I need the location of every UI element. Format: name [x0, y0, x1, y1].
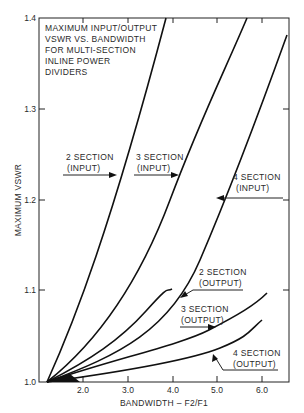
- label-2-section-input: 2 SECTION (INPUT): [63, 152, 117, 178]
- svg-text:4 SECTION: 4 SECTION: [233, 348, 281, 358]
- svg-text:(INPUT): (INPUT): [236, 183, 269, 193]
- y-tick-labels: 1.0 1.1 1.2 1.3 1.4: [24, 13, 36, 387]
- label-4-section-output: 4 SECTION (OUTPUT): [212, 348, 281, 370]
- svg-text:3 SECTION: 3 SECTION: [181, 304, 229, 314]
- svg-text:(INPUT): (INPUT): [137, 163, 170, 173]
- svg-text:(OUTPUT): (OUTPUT): [199, 278, 242, 288]
- x-tick-labels: 2.0 3.0 4.0 5.0 6.0: [77, 385, 268, 395]
- y-axis-label: MAXIMUM VSWR: [13, 164, 23, 237]
- svg-text:4 SECTION: 4 SECTION: [233, 172, 281, 182]
- x-axis-label: BANDWIDTH – F2/F1: [120, 398, 208, 408]
- svg-text:(OUTPUT): (OUTPUT): [233, 359, 276, 369]
- x-axis: [83, 18, 262, 382]
- svg-text:(OUTPUT): (OUTPUT): [181, 315, 224, 325]
- svg-text:2.0: 2.0: [77, 385, 89, 395]
- label-2-section-output: 2 SECTION (OUTPUT): [180, 267, 247, 298]
- curve-2-section-output: [47, 289, 172, 382]
- svg-text:1.2: 1.2: [24, 195, 36, 205]
- svg-text:FOR MULTI-SECTION: FOR MULTI-SECTION: [45, 45, 136, 55]
- chart-title: MAXIMUM INPUT/OUTPUT VSWR VS. BANDWIDTH …: [45, 23, 157, 77]
- svg-text:DIVIDERS: DIVIDERS: [45, 67, 88, 77]
- svg-text:VSWR VS. BANDWIDTH: VSWR VS. BANDWIDTH: [45, 34, 146, 44]
- svg-text:3.0: 3.0: [122, 385, 134, 395]
- vswr-chart: 1.0 1.1 1.2 1.3 1.4 2.0 3.0 4.0 5.0 6.0 …: [0, 0, 304, 413]
- curve-4-section-output: [47, 320, 262, 382]
- svg-text:1.4: 1.4: [24, 13, 36, 23]
- svg-text:(INPUT): (INPUT): [67, 163, 100, 173]
- svg-text:5.0: 5.0: [211, 385, 223, 395]
- svg-text:2 SECTION: 2 SECTION: [66, 152, 114, 162]
- svg-text:1.3: 1.3: [24, 104, 36, 114]
- label-3-section-output: 3 SECTION (OUTPUT): [180, 304, 229, 330]
- y-axis: [39, 109, 289, 290]
- svg-text:INLINE POWER: INLINE POWER: [45, 56, 110, 66]
- label-3-section-input: 3 SECTION (INPUT): [134, 152, 184, 178]
- svg-text:4.0: 4.0: [167, 385, 179, 395]
- svg-text:1.0: 1.0: [24, 377, 36, 387]
- svg-text:6.0: 6.0: [256, 385, 268, 395]
- svg-text:3 SECTION: 3 SECTION: [136, 152, 184, 162]
- svg-text:2 SECTION: 2 SECTION: [199, 267, 247, 277]
- svg-text:MAXIMUM INPUT/OUTPUT: MAXIMUM INPUT/OUTPUT: [45, 23, 157, 33]
- svg-text:1.1: 1.1: [24, 285, 36, 295]
